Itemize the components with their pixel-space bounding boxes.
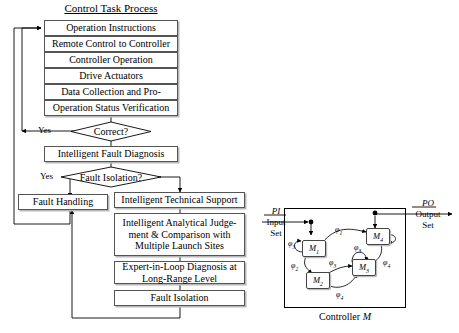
caption-prefix: Controller — [319, 311, 363, 322]
process-box-remote-control: Remote Control to Controller — [44, 36, 178, 52]
branch-label-correct-yes: Yes — [38, 125, 51, 135]
process-box-expert-in-loop-diagnosis: Expert-in-Loop Diagnosis at Long-Range L… — [114, 261, 245, 284]
process-box-intelligent-fault-diagnosis: Intelligent Fault Diagnosis — [44, 146, 178, 162]
output-line1: Output — [415, 209, 440, 219]
box-label: Expert-in-Loop Diagnosis at Long-Range L… — [117, 261, 242, 284]
box-label: Controller Operation — [47, 54, 175, 66]
transition-label-phi4-m3-m4: φ4 — [383, 258, 390, 269]
process-box-operation-instructions: Operation Instructions — [44, 20, 178, 36]
branch-label-fault-isolation-yes: Yes — [40, 171, 53, 181]
process-box-data-collection: Data Collection and Pro- — [44, 84, 178, 100]
state-label: M2 — [313, 275, 323, 287]
input-line1: Input — [267, 217, 286, 227]
box-label: Intelligent Technical Support — [117, 194, 242, 206]
state-label: M4 — [373, 231, 383, 243]
decision-label: Correct? — [71, 122, 151, 141]
process-box-fault-isolation-result: Fault Isolation — [114, 290, 245, 306]
input-line2: Set — [270, 228, 282, 238]
transition-label-phi3-m2-m3: φ3 — [329, 258, 336, 269]
decision-correct: Correct? — [71, 122, 151, 141]
figure-root: Control Task Process Operation Instructi… — [0, 0, 459, 333]
box-label: Data Collection and Pro- — [47, 86, 175, 98]
process-box-fault-handling: Fault Handling — [18, 194, 108, 210]
box-label: Operation Status Verification — [47, 102, 175, 114]
transition-label-phi1-m1-m4: φ1 — [335, 225, 342, 236]
input-set-label: PI Input Set — [258, 206, 294, 239]
state-m4: M4 — [366, 228, 390, 245]
box-label: Intelligent Analytical Judge- ment & Com… — [117, 217, 242, 252]
caption-symbol: M — [363, 311, 371, 322]
flowchart-title: Control Task Process — [44, 2, 178, 14]
box-label: Fault Handling — [21, 196, 105, 208]
transition-label-phi4-m2-m3: φ4 — [336, 290, 343, 301]
state-m1: M1 — [302, 240, 326, 257]
process-box-intelligent-technical-support: Intelligent Technical Support — [114, 192, 245, 208]
output-set-label: PO Output Set — [406, 198, 450, 231]
state-m3: M3 — [352, 259, 376, 276]
transition-label-phi3-self-m1: φ3 — [288, 239, 295, 250]
box-label: Intelligent Fault Diagnosis — [47, 148, 175, 160]
box-label: Operation Instructions — [47, 22, 175, 34]
box-label: Remote Control to Controller — [47, 38, 175, 50]
state-m2: M2 — [306, 272, 330, 289]
transition-label-phi2-m1-m2: φ2 — [291, 261, 298, 272]
decision-fault-isolation: Fault Isolation? — [61, 167, 161, 187]
box-label: Drive Actuators — [47, 70, 175, 82]
state-label: M1 — [309, 243, 319, 255]
process-box-drive-actuators: Drive Actuators — [44, 68, 178, 84]
state-label: M3 — [359, 262, 369, 274]
process-box-operation-status-verification: Operation Status Verification — [44, 100, 178, 116]
input-symbol: PI — [272, 206, 281, 216]
process-box-controller-operation: Controller Operation — [44, 52, 178, 68]
automaton-caption: Controller M — [284, 311, 406, 322]
output-line2: Set — [422, 220, 434, 230]
decision-label: Fault Isolation? — [61, 167, 161, 187]
transition-label-phi3-self-m3: φ3 — [354, 243, 361, 254]
process-box-intelligent-analytical-judgement: Intelligent Analytical Judge- ment & Com… — [114, 213, 245, 256]
box-label: Fault Isolation — [117, 292, 242, 304]
output-symbol: PO — [422, 198, 434, 208]
